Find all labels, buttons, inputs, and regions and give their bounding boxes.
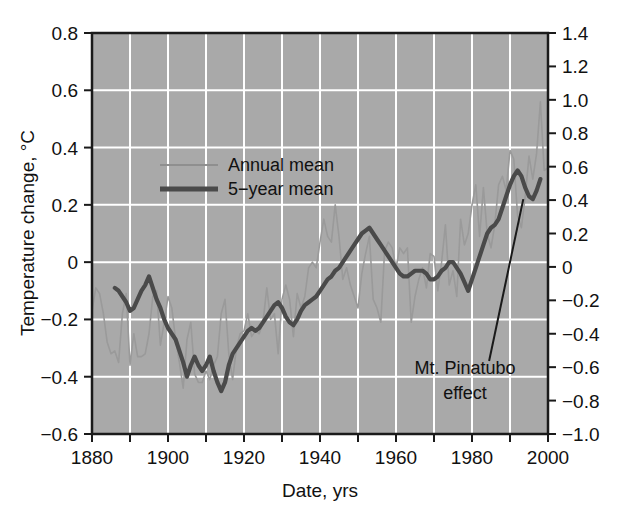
x-tick-label: 1940 [299,447,341,468]
temperature-change-chart: 1880190019201940196019802000 −0.6−0.4−0.… [0,0,626,514]
y-tick-label-left: 0.6 [52,80,78,101]
x-tick-label: 1960 [375,447,417,468]
annotation-text-line-2: effect [443,383,487,403]
x-tick-label: 1880 [71,447,113,468]
y-tick-label-right: 0.4 [562,190,589,211]
y-tick-label-right: −1.0 [562,424,600,445]
x-axis-title: Date, yrs [282,480,358,501]
x-tick-label: 2000 [527,447,569,468]
legend-label-annual-mean: Annual mean [228,155,334,175]
y-tick-label-right: −0.2 [562,290,600,311]
y-tick-label-right: −0.4 [562,324,600,345]
x-tick-label: 1920 [223,447,265,468]
y-tick-label-right: 1.4 [562,23,589,44]
y-tick-label-right: −0.6 [562,357,600,378]
x-tick-label: 1980 [451,447,493,468]
y-tick-label-right: −0.8 [562,391,600,412]
y-tick-label-right: 1.2 [562,56,588,77]
y-tick-label-right: 0.2 [562,224,588,245]
y-tick-label-right: 0.6 [562,157,588,178]
y-tick-label-right: 1.0 [562,90,588,111]
y-tick-label-left: −0.6 [40,424,78,445]
y-tick-label-left: 0 [67,252,78,273]
x-tick-label: 1900 [147,447,189,468]
y-tick-label-left: 0.8 [52,23,78,44]
y-tick-label-right: 0.8 [562,123,588,144]
y-tick-label-left: 0.4 [52,138,79,159]
y-tick-label-left: −0.4 [40,367,78,388]
y-tick-label-left: −0.2 [40,309,78,330]
annotation-text-line-1: Mt. Pinatubo [414,358,515,378]
y-tick-label-left: 0.2 [52,195,78,216]
y-tick-label-right: 0 [562,257,573,278]
y-axis-title: Temperature change, °C [17,130,38,336]
chart-svg: 1880190019201940196019802000 −0.6−0.4−0.… [0,0,626,514]
legend-label-five-year-mean: 5−year mean [228,179,334,199]
